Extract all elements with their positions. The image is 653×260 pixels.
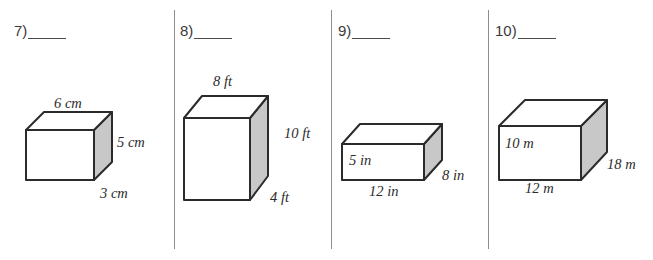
worksheet-canvas: 7) 6 cm 5 cm 3 cm 8) [0, 0, 653, 260]
problem-number-8-text: 8) [180, 22, 193, 39]
problem-number-7: 7) [14, 22, 66, 39]
prism-front-face-8 [184, 118, 250, 200]
prism-figure-7 [22, 106, 122, 192]
dimension-label-depth-7: 3 cm [100, 185, 128, 202]
problem-panel-7: 7) 6 cm 5 cm 3 cm [0, 0, 174, 260]
dimension-label-height-10: 10 m [505, 135, 534, 152]
dimension-label-height-7: 5 cm [117, 134, 145, 151]
problem-number-8: 8) [180, 22, 232, 39]
problem-panel-8: 8) 8 ft 10 ft 4 ft [175, 0, 331, 260]
dimension-label-width-10: 12 m [525, 180, 554, 197]
answer-blank-7[interactable] [28, 25, 66, 39]
answer-blank-8[interactable] [194, 25, 232, 39]
dimension-label-height-8: 10 ft [284, 125, 310, 142]
prism-front-face-7 [26, 130, 94, 180]
dimension-label-width-9: 12 in [369, 183, 398, 200]
prism-figure-8 [180, 88, 290, 204]
answer-blank-9[interactable] [352, 25, 390, 39]
problem-panel-10: 10) 10 m 12 m 18 m [489, 0, 653, 260]
prism-top-face-9 [342, 124, 442, 144]
problem-number-9: 9) [338, 22, 390, 39]
dimension-label-depth-10: 18 m [607, 156, 636, 173]
problem-number-7-text: 7) [14, 22, 27, 39]
dimension-label-depth-9: 8 in [442, 167, 464, 184]
problem-number-10-text: 10) [495, 22, 517, 39]
prism-svg-7 [22, 106, 122, 192]
answer-blank-10[interactable] [518, 25, 556, 39]
dimension-label-top-8: 8 ft [213, 73, 232, 90]
problem-number-10: 10) [495, 22, 556, 39]
problem-number-9-text: 9) [338, 22, 351, 39]
problem-panel-9: 9) 5 in 12 in 8 in [332, 0, 488, 260]
prism-svg-8 [180, 88, 290, 204]
dimension-label-top-7: 6 cm [54, 95, 82, 112]
dimension-label-height-9: 5 in [349, 152, 371, 169]
dimension-label-depth-8: 4 ft [270, 189, 289, 206]
